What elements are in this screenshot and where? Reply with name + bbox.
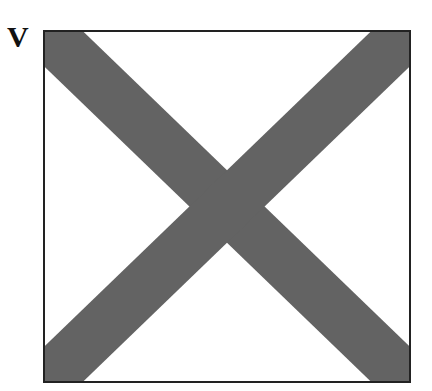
cross-diagram [43,30,411,383]
figure-label: V [7,22,29,52]
saltire-graphic [43,30,411,383]
